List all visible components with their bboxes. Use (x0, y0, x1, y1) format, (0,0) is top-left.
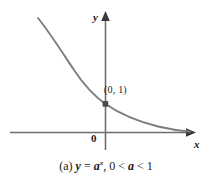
caption-part-less-than-2: < (137, 159, 144, 173)
caption-part-condition-left: 0 (109, 159, 115, 173)
caption-part-comma: , (103, 159, 106, 173)
caption-part-lhs: y (76, 159, 81, 173)
y-axis-arrowhead (101, 11, 110, 21)
intercept-point-marker (103, 101, 109, 107)
x-axis-label: x (194, 139, 200, 150)
y-axis-label: y (93, 12, 98, 23)
caption-part-label: (a) (59, 159, 72, 173)
figure-caption: (a)y=ax,0<a<1 (0, 160, 212, 173)
origin-label: 0 (91, 133, 97, 144)
intercept-point-label: (0, 1) (104, 85, 127, 95)
caption-part-condition-mid: a (128, 159, 134, 173)
exponential-curve (38, 18, 190, 132)
plot-area: y x 0 (0, 1) (0, 0, 212, 158)
caption-part-condition-right: 1 (147, 159, 153, 173)
caption-part-less-than-1: < (118, 159, 125, 173)
exponential-decay-figure: y x 0 (0, 1) (a)y=ax,0<a<1 (0, 0, 212, 190)
caption-part-equals: = (84, 159, 91, 173)
x-axis-arrowhead (186, 128, 196, 137)
plot-svg (0, 0, 212, 158)
